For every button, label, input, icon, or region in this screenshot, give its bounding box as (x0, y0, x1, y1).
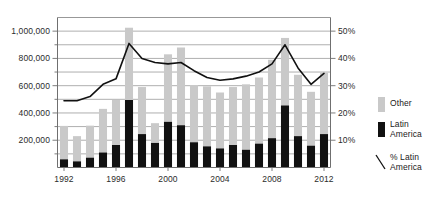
y-axis-right-tick-label: 10% (338, 135, 355, 145)
bar-segment-other (73, 136, 81, 161)
bar-segment-other (60, 126, 68, 159)
x-axis-tick-label: 2012 (304, 174, 344, 184)
bar-segment-latin-america (307, 146, 315, 168)
bar-segment-latin-america (190, 142, 198, 167)
y-axis-right-tick-label: 30% (338, 81, 355, 91)
legend-swatch-latin-america (378, 122, 385, 137)
y-axis-right-tick-label: 20% (338, 108, 355, 118)
bar-segment-other (151, 123, 159, 143)
bar-segment-latin-america (73, 161, 81, 167)
bar-segment-other (125, 28, 133, 100)
bar-segment-latin-america (60, 159, 68, 167)
bar-segment-other (112, 100, 120, 145)
bar-segment-other (203, 86, 211, 146)
bar-segment-other (268, 60, 276, 138)
bar-segment-other (216, 93, 224, 149)
bar-segment-other (99, 109, 107, 153)
bar-segment-latin-america (151, 143, 159, 168)
bar-segment-latin-america (255, 144, 263, 168)
x-axis-tick-label: 1996 (96, 174, 136, 184)
chart-container: 200,000400,000600,000800,0001,000,000 10… (0, 0, 436, 205)
bar-segment-other (138, 87, 146, 134)
bar-segment-other (307, 92, 315, 146)
bar-segment-latin-america (164, 122, 172, 168)
legend-label-other: Other (390, 99, 412, 109)
bar-segment-latin-america (216, 148, 224, 167)
bar-segment-latin-america (203, 146, 211, 167)
x-axis-tick-label: 2004 (200, 174, 240, 184)
bar-segment-other (86, 126, 94, 158)
bar-segment-latin-america (138, 134, 146, 167)
legend-label-percent-latin-america: % Latin America (390, 153, 422, 172)
y-axis-left-tick-label: 800,000 (0, 53, 50, 63)
x-axis-tick-label: 2000 (148, 174, 188, 184)
bar-segment-other (255, 78, 263, 144)
bar-segment-other (320, 73, 328, 134)
bar-segment-other (242, 84, 250, 149)
bar-segment-latin-america (229, 145, 237, 168)
bar-segment-latin-america (177, 125, 185, 167)
bar-segment-other (177, 48, 185, 126)
legend-swatch-percent-line (374, 153, 388, 171)
y-axis-left-tick-label: 200,000 (0, 135, 50, 145)
x-axis-tick-label: 2008 (252, 174, 292, 184)
legend-label-latin-america: Latin America (390, 120, 422, 139)
bar-segment-latin-america (281, 105, 289, 167)
bar-segment-other (294, 75, 302, 136)
y-axis-left-tick-label: 1,000,000 (0, 26, 50, 36)
bar-segment-latin-america (268, 138, 276, 167)
bar-segment-latin-america (294, 136, 302, 167)
y-axis-right-tick-label: 50% (338, 26, 355, 36)
legend-swatch-other (378, 97, 385, 112)
bar-segment-latin-america (99, 153, 107, 168)
y-axis-right-tick-label: 40% (338, 53, 355, 63)
bar-segment-latin-america (125, 100, 133, 168)
bar-segment-other (190, 85, 198, 142)
bar-segment-latin-america (112, 145, 120, 168)
bar-segment-other (229, 87, 237, 145)
y-axis-left-tick-label: 400,000 (0, 108, 50, 118)
bar-segment-latin-america (242, 150, 250, 168)
bar-segment-latin-america (86, 158, 94, 168)
x-axis-tick-label: 1992 (44, 174, 84, 184)
bar-segment-latin-america (320, 134, 328, 167)
y-axis-left-tick-label: 600,000 (0, 81, 50, 91)
